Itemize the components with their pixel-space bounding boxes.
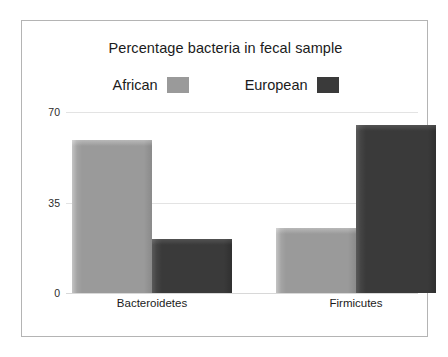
x-category-label-firmicutes: Firmicutes — [276, 297, 436, 309]
bar-african-firmicutes[interactable] — [276, 228, 356, 293]
bar-european-firmicutes[interactable] — [356, 125, 436, 293]
bar-shading — [356, 125, 436, 293]
bars-layer — [22, 21, 429, 338]
x-category-label-bacteroidetes: Bacteroidetes — [72, 297, 232, 309]
plot-area: 03570 BacteroidetesFirmicutes — [22, 21, 429, 338]
bar-european-bacteroidetes[interactable] — [152, 239, 232, 293]
chart-frame: Percentage bacteria in fecal sample Afri… — [21, 20, 428, 337]
bar-shading — [152, 239, 232, 293]
bar-shading — [72, 140, 152, 293]
bar-shading — [276, 228, 356, 293]
bar-african-bacteroidetes[interactable] — [72, 140, 152, 293]
